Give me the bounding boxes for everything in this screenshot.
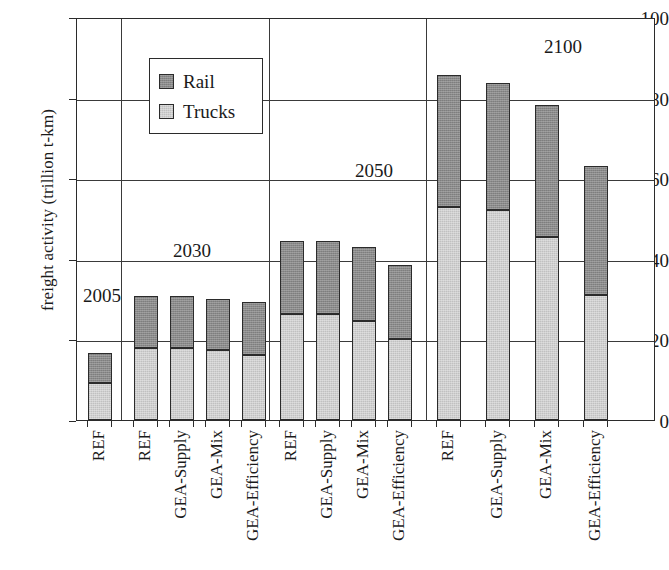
legend-item-rail: Rail: [159, 66, 251, 96]
bar-2050-gea-efficiency: [388, 265, 412, 420]
bar-segment-rail: [242, 302, 266, 355]
x-tick-mark-6: [315, 421, 316, 427]
x-tick-label-2050-gea-supply: GEA-Supply: [318, 430, 336, 519]
x-tick-mark-4: [241, 421, 242, 427]
bar-segment-rail: [437, 75, 461, 207]
bar-2030-gea-supply: [170, 296, 194, 420]
x-tick-mark-2b: [193, 421, 194, 427]
chart-legend: Rail Trucks: [149, 58, 263, 134]
bar-segment-rail: [88, 353, 112, 384]
bar-segment-trucks: [486, 210, 510, 420]
bar-2100-ref: [437, 75, 461, 420]
x-tick-mark-8b: [411, 421, 412, 427]
bar-segment-trucks: [388, 339, 412, 420]
x-tick-label-2100-gea-efficiency: GEA-Efficiency: [586, 430, 604, 541]
bar-2100-gea-mix: [535, 105, 559, 420]
x-tick-mark-11: [534, 421, 535, 427]
bar-segment-trucks: [88, 383, 112, 420]
y-tick-mark-0: [69, 421, 76, 422]
x-tick-mark-8: [387, 421, 388, 427]
x-tick-mark-12: [583, 421, 584, 427]
x-tick-mark-10: [485, 421, 486, 427]
x-tick-mark-4b: [265, 421, 266, 427]
bar-2030-ref: [134, 296, 158, 420]
bar-segment-trucks: [584, 295, 608, 420]
x-tick-label-2050-gea-efficiency: GEA-Efficiency: [390, 430, 408, 541]
bar-2030-gea-efficiency: [242, 302, 266, 420]
bar-segment-rail: [486, 83, 510, 210]
x-tick-mark-12b: [607, 421, 608, 427]
x-tick-mark-2: [169, 421, 170, 427]
bar-segment-rail: [206, 299, 230, 350]
x-tick-mark-6b: [339, 421, 340, 427]
x-tick-mark-7: [351, 421, 352, 427]
group-label-2050: 2050: [355, 161, 393, 180]
bar-segment-rail: [535, 105, 559, 237]
bar-segment-trucks: [242, 355, 266, 420]
bar-segment-trucks: [535, 237, 559, 420]
x-tick-mark-1b: [157, 421, 158, 427]
x-tick-mark-9: [436, 421, 437, 427]
bar-segment-rail: [280, 241, 304, 314]
x-tick-mark-3b: [229, 421, 230, 427]
bar-segment-rail: [584, 166, 608, 295]
x-tick-mark-5: [279, 421, 280, 427]
bar-2005-ref: [88, 353, 112, 420]
bar-segment-trucks: [170, 348, 194, 421]
x-tick-mark-11b: [558, 421, 559, 427]
x-tick-label-2030-gea-mix: GEA-Mix: [208, 430, 226, 499]
bar-segment-trucks: [206, 350, 230, 420]
bar-2050-gea-mix: [352, 247, 376, 420]
legend-item-trucks: Trucks: [159, 96, 251, 126]
x-tick-label-2030-gea-supply: GEA-Supply: [172, 430, 190, 519]
y-axis-title: freight activity (trillion t-km): [38, 10, 58, 410]
x-tick-mark-0: [87, 421, 88, 427]
x-tick-mark-7b: [375, 421, 376, 427]
plot-area: 2005 2030 2050 2100: [76, 18, 655, 421]
x-tick-mark-9b: [460, 421, 461, 427]
legend-label-trucks: Trucks: [183, 102, 235, 121]
y-tick-mark-80: [69, 99, 76, 100]
legend-swatch-trucks-icon: [159, 104, 174, 119]
y-tick-mark-100: [69, 18, 76, 19]
legend-label-rail: Rail: [183, 72, 215, 91]
x-tick-label-2030-ref: REF: [136, 430, 154, 461]
x-tick-label-2030-gea-efficiency: GEA-Efficiency: [244, 430, 262, 541]
bar-2050-gea-supply: [316, 241, 340, 420]
bar-2050-ref: [280, 241, 304, 420]
legend-swatch-rail-icon: [159, 74, 174, 89]
bar-segment-trucks: [134, 348, 158, 421]
bar-segment-rail: [134, 296, 158, 347]
x-tick-mark-1: [133, 421, 134, 427]
group-label-2100: 2100: [544, 37, 582, 56]
x-tick-mark-10b: [509, 421, 510, 427]
x-tick-label-2100-gea-mix: GEA-Mix: [537, 430, 555, 499]
x-tick-label-2050-ref: REF: [282, 430, 300, 461]
bar-segment-trucks: [316, 314, 340, 420]
x-tick-mark-5b: [303, 421, 304, 427]
y-tick-mark-20: [69, 340, 76, 341]
x-tick-mark-3: [205, 421, 206, 427]
bar-segment-trucks: [280, 314, 304, 420]
freight-activity-chart: freight activity (trillion t-km) 100 80 …: [0, 0, 669, 570]
bar-segment-rail: [352, 247, 376, 321]
y-tick-mark-40: [69, 260, 76, 261]
group-separator-2030-2050: [269, 19, 270, 420]
bar-2100-gea-supply: [486, 83, 510, 420]
x-tick-label-2100-gea-supply: GEA-Supply: [488, 430, 506, 519]
y-tick-mark-60: [69, 179, 76, 180]
group-label-2030: 2030: [173, 241, 211, 260]
group-label-2005: 2005: [83, 286, 121, 305]
x-tick-label-2050-gea-mix: GEA-Mix: [354, 430, 372, 499]
bar-2030-gea-mix: [206, 299, 230, 420]
bar-2100-gea-efficiency: [584, 166, 608, 420]
bar-segment-trucks: [437, 207, 461, 420]
bar-segment-rail: [170, 296, 194, 347]
x-tick-mark-0b: [111, 421, 112, 427]
bar-segment-rail: [316, 241, 340, 314]
group-separator-2005-2030: [121, 19, 122, 420]
bar-segment-rail: [388, 265, 412, 339]
group-separator-2050-2100: [426, 19, 427, 420]
x-tick-label-2005-ref: REF: [90, 430, 108, 461]
x-tick-label-2100-ref: REF: [439, 430, 457, 461]
